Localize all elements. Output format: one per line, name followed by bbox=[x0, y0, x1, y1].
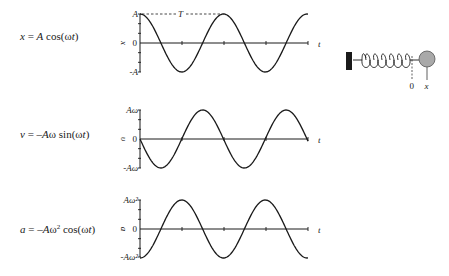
y-axis-label: x bbox=[119, 40, 129, 45]
graph-position: A0-Atx bbox=[119, 9, 321, 77]
y-axis-label: a bbox=[119, 227, 129, 232]
graph-acceleration: Aω²0-Aω²ta bbox=[119, 195, 321, 262]
y-bottom-label: -Aω² bbox=[120, 252, 138, 262]
wall-icon bbox=[346, 52, 352, 70]
equilibrium-label: 0 bbox=[410, 81, 415, 91]
spring-mass-diagram: 0 x bbox=[346, 51, 435, 91]
x-axis-label: t bbox=[318, 39, 321, 49]
mass-ball-icon bbox=[419, 51, 435, 67]
y-top-label: A bbox=[132, 9, 139, 19]
y-zero-label: 0 bbox=[133, 134, 138, 144]
spring-icon bbox=[353, 54, 419, 68]
diagram-canvas: A0-Atx Aω0-Aωtυ Aω²0-Aω²ta T 0 x bbox=[0, 0, 449, 276]
y-bottom-label: -Aω bbox=[123, 163, 138, 173]
y-top-label: Aω² bbox=[122, 195, 138, 205]
period-label: T bbox=[178, 9, 184, 19]
y-zero-label: 0 bbox=[133, 224, 138, 234]
x-axis-label: t bbox=[318, 225, 321, 235]
position-label: x bbox=[424, 81, 429, 91]
y-axis-label: υ bbox=[119, 137, 129, 141]
x-axis-label: t bbox=[318, 135, 321, 145]
graph-velocity: Aω0-Aωtυ bbox=[119, 105, 321, 173]
y-bottom-label: -A bbox=[130, 67, 139, 77]
y-zero-label: 0 bbox=[133, 38, 138, 48]
period-annotation: T bbox=[142, 9, 222, 19]
y-top-label: Aω bbox=[125, 105, 138, 115]
